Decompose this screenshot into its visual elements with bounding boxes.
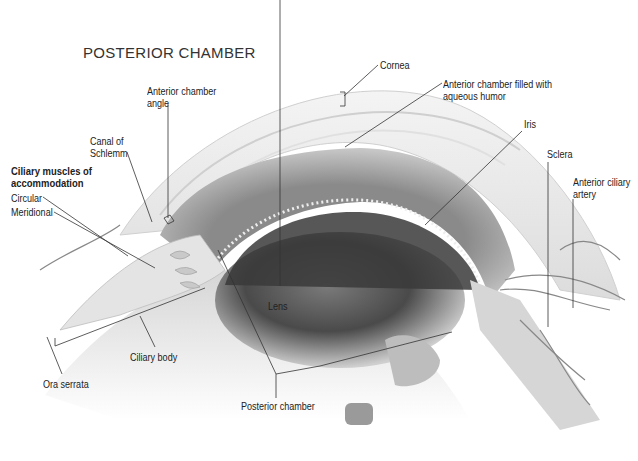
label-circular: Circular <box>11 192 42 204</box>
label-posterior-chamber: Posterior chamber <box>241 400 315 412</box>
label-iris: Iris <box>524 118 536 130</box>
label-meridional: Meridional <box>11 206 53 218</box>
label-anterior-chamber-angle: Anterior chamber angle <box>147 85 216 109</box>
eye-anatomy-illustration <box>0 0 638 461</box>
label-line: Anterior chamber <box>147 85 216 97</box>
label-anterior-chamber: Anterior chamber filled with aqueous hum… <box>443 78 552 102</box>
label-line: Canal of <box>90 135 128 147</box>
label-line: artery <box>573 188 630 200</box>
label-line: Schlemm <box>90 147 128 159</box>
label-line: angle <box>147 97 216 109</box>
label-canal-of-schlemm: Canal of Schlemm <box>90 135 128 159</box>
label-anterior-ciliary-artery: Anterior ciliary artery <box>573 176 630 200</box>
label-line: aqueous humor <box>443 90 552 102</box>
label-cornea: Cornea <box>380 59 410 71</box>
label-line: Anterior ciliary <box>573 176 630 188</box>
label-line: Ciliary muscles of <box>11 165 92 177</box>
diagram-title: POSTERIOR CHAMBER <box>83 44 256 61</box>
label-ciliary-body: Ciliary body <box>130 351 177 363</box>
label-line: Anterior chamber filled with <box>443 78 552 90</box>
label-ciliary-muscles: Ciliary muscles of accommodation <box>11 165 92 189</box>
label-sclera: Sclera <box>547 148 573 160</box>
label-lens: Lens <box>268 300 288 312</box>
label-ora-serrata: Ora serrata <box>43 378 89 390</box>
label-line: accommodation <box>11 177 92 189</box>
